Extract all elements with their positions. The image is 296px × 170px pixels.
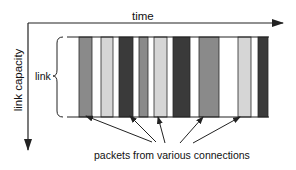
packet-bar-8: [238, 37, 251, 117]
packet-bar-1: [79, 37, 92, 117]
packet-bar-5: [154, 37, 167, 117]
pointer-arrow-1: [86, 116, 152, 142]
time-axis-label: time: [132, 10, 154, 22]
packet-pointer-arrows: [86, 116, 240, 143]
packet-bar-3: [119, 37, 133, 117]
packet-bar-2: [101, 37, 113, 117]
packet-bar-9: [258, 37, 268, 117]
packet-bars: [79, 37, 268, 117]
packet-bar-4: [139, 37, 148, 117]
packet-bar-6: [173, 37, 190, 117]
packet-bar-7: [199, 37, 219, 117]
link-label: link: [35, 70, 52, 82]
link-capacity-diagram: time link capacity link packets from var…: [0, 0, 296, 170]
link-brace-icon: [53, 37, 63, 117]
caption: packets from various connections: [94, 149, 250, 161]
diagram-canvas: time link capacity link packets from var…: [0, 0, 296, 170]
pointer-arrow-3: [158, 117, 165, 143]
capacity-axis-label: link capacity: [12, 48, 24, 111]
